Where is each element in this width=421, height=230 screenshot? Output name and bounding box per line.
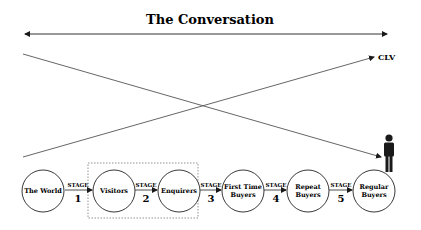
node-the-world: The World <box>22 170 64 212</box>
stage-number: 5 <box>338 193 345 204</box>
clv-label: CLV <box>378 52 396 62</box>
node-label: Buyers <box>361 191 387 199</box>
stage-number: 4 <box>273 193 280 204</box>
node-label: First Time <box>224 183 262 191</box>
stage-label: STAGE <box>136 182 157 188</box>
node-label: Repeat <box>295 183 320 191</box>
node-label: The World <box>24 187 62 195</box>
node-first-time-buyers: First Time Buyers <box>222 170 264 212</box>
node-label: Enquirers <box>161 187 197 195</box>
stage-label: STAGE <box>331 182 352 188</box>
node-label: Buyers <box>230 191 256 199</box>
node-label: Regular <box>360 183 389 191</box>
stage-2-arrow: STAGE 2 <box>135 182 157 204</box>
stage-3-arrow: STAGE 3 <box>200 182 221 204</box>
stage-number: 1 <box>75 193 82 204</box>
node-label: Buyers <box>295 191 321 199</box>
node-visitors: Visitors <box>93 170 135 212</box>
stage-number: 2 <box>143 193 150 204</box>
person-icon <box>384 134 394 172</box>
customer-journey-diagram: The Conversation CLV The World Visitors … <box>0 0 421 230</box>
diagram-title: The Conversation <box>146 12 274 27</box>
node-repeat-buyers: Repeat Buyers <box>287 170 329 212</box>
node-label: Visitors <box>99 187 128 195</box>
node-regular-buyers: Regular Buyers <box>353 170 395 212</box>
stage-4-arrow: STAGE 4 <box>264 182 286 204</box>
stage-number: 3 <box>208 193 215 204</box>
clv-growth-line-arrow <box>23 57 374 157</box>
stage-label: STAGE <box>201 182 222 188</box>
stage-label: STAGE <box>266 182 287 188</box>
stage-5-arrow: STAGE 5 <box>329 182 352 204</box>
node-enquirers: Enquirers <box>158 170 200 212</box>
stage-label: STAGE <box>68 182 89 188</box>
